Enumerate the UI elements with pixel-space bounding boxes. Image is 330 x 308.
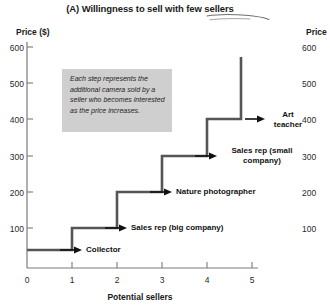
arrow-art-teacher: [245, 116, 265, 123]
callout-nature-photographer: Nature photographer: [176, 187, 256, 197]
callout-sales-rep-big: Sales rep (big company): [131, 223, 223, 233]
x-axis-ticks: [72, 262, 252, 268]
callout-sales-rep-small-line2: company): [221, 156, 303, 166]
chart-figure: (A) Willingness to sell with few sellers…: [0, 0, 330, 308]
callout-collector: Collector: [86, 245, 121, 255]
callout-art-teacher-line2: teacher: [268, 120, 308, 130]
supply-step-curve: [27, 57, 241, 250]
callout-art-teacher-line1: Art: [268, 110, 308, 120]
callout-sales-rep-small-line1: Sales rep (small: [221, 146, 303, 156]
y-axis-ticks: [27, 47, 33, 228]
